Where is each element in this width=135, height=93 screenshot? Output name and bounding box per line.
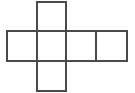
cube-net-figure — [0, 0, 135, 93]
net-square-top — [37, 2, 66, 31]
net-square-bottom — [37, 61, 66, 91]
net-square-middle-3 — [66, 31, 96, 61]
net-square-middle-1 — [7, 31, 37, 61]
net-square-middle-2 — [37, 31, 66, 61]
cube-net-drawing — [0, 0, 135, 93]
net-square-middle-4 — [96, 31, 127, 61]
